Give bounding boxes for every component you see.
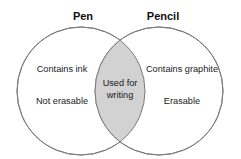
- left-set-item-1: Contains ink: [37, 64, 88, 74]
- right-set-item-1: Contains graphite: [146, 64, 218, 74]
- left-set-title: Pen: [73, 10, 93, 22]
- venn-diagram-canvas: Pen Pencil Contains ink Not erasable Con…: [0, 0, 241, 159]
- right-set-title: Pencil: [147, 10, 179, 22]
- intersection-label-line-2: writing: [106, 90, 134, 100]
- left-set-item-2: Not erasable: [36, 96, 88, 106]
- intersection-label-line-1: Used for: [103, 78, 138, 88]
- venn-diagram: Pen Pencil Contains ink Not erasable Con…: [0, 0, 241, 159]
- right-set-item-2: Erasable: [164, 96, 200, 106]
